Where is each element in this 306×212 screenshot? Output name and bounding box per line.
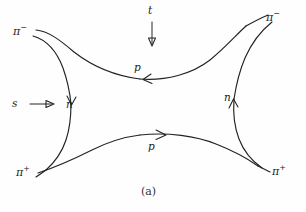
pi-plus-bottom-left-charge: +: [23, 164, 30, 173]
label-n-right: n: [224, 92, 231, 103]
figure-root: π− π− π+ π+ p p n n s t (a): [0, 0, 306, 212]
label-pi-plus-bottom-right: π+: [272, 164, 286, 177]
label-p-top: p: [134, 62, 141, 73]
scattering-diagram-canvas: [0, 0, 306, 212]
pi-minus-top-right-charge: −: [273, 9, 280, 18]
curve-left-n-line: [46, 104, 71, 170]
label-s-channel: s: [12, 98, 17, 109]
label-n-left: n: [66, 99, 73, 110]
label-p-bottom: p: [148, 141, 155, 152]
curve-bottom-left-outer: [38, 135, 140, 173]
label-pi-minus-top-left: π−: [13, 24, 27, 37]
label-pi-plus-bottom-left: π+: [16, 165, 30, 178]
curve-top-right-outer: [246, 15, 268, 26]
figure-caption: (a): [141, 186, 156, 197]
curve-top-left-outer: [36, 30, 140, 79]
curve-top-p-line: [140, 26, 246, 79]
curve-right-n-line: [234, 99, 262, 168]
label-pi-minus-top-right: π−: [266, 10, 280, 23]
curve-bottom-right-outer: [258, 166, 270, 172]
label-t-channel: t: [148, 5, 152, 16]
curve-top-left-inner: [33, 36, 71, 104]
arrow-head-p-bottom: [156, 130, 166, 140]
pi-minus-top-left-charge: −: [20, 23, 27, 32]
curve-top-right-inner: [234, 22, 272, 99]
pi-plus-bottom-right-charge: +: [279, 163, 286, 172]
arrow-head-p-top: [143, 74, 152, 84]
